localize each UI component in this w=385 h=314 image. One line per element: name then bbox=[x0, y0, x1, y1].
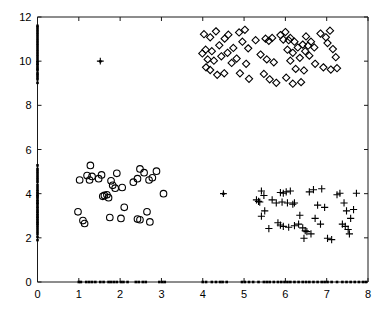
marker-dot bbox=[137, 281, 140, 284]
marker-dot bbox=[362, 281, 365, 284]
marker-dot bbox=[263, 281, 266, 284]
scatter-plot-figure: 012345678024681012 bbox=[0, 0, 385, 314]
marker-dot bbox=[110, 281, 113, 284]
marker-dot bbox=[120, 281, 123, 284]
marker-dot bbox=[163, 281, 166, 284]
marker-dot bbox=[201, 281, 204, 284]
marker-dot bbox=[280, 281, 283, 284]
marker-dot bbox=[144, 281, 147, 284]
marker-dot bbox=[358, 281, 361, 284]
marker-dot bbox=[94, 281, 97, 284]
marker-dot bbox=[126, 281, 129, 284]
y-tick-label-8: 8 bbox=[25, 99, 31, 111]
marker-dot bbox=[326, 281, 329, 284]
marker-dot bbox=[365, 281, 368, 284]
marker-dot bbox=[36, 72, 39, 75]
marker-dot bbox=[283, 281, 286, 284]
y-tick-label-12: 12 bbox=[19, 11, 31, 23]
marker-dot bbox=[36, 25, 39, 28]
marker-dot bbox=[161, 281, 164, 284]
marker-dot bbox=[36, 168, 39, 171]
x-tick-label-4: 4 bbox=[200, 288, 206, 300]
marker-dot bbox=[265, 281, 268, 284]
marker-dot bbox=[349, 281, 352, 284]
marker-dot bbox=[36, 82, 39, 85]
marker-dot bbox=[308, 281, 311, 284]
y-tick-label-0: 0 bbox=[25, 276, 31, 288]
marker-dot bbox=[36, 164, 39, 167]
marker-solid-plus-core bbox=[222, 192, 225, 195]
marker-dot bbox=[107, 281, 110, 284]
marker-dot bbox=[312, 281, 315, 284]
marker-dot bbox=[244, 281, 247, 284]
scatter-plot-page: 012345678024681012 bbox=[0, 0, 385, 314]
marker-dot bbox=[122, 281, 125, 284]
marker-dot bbox=[252, 281, 255, 284]
marker-dot bbox=[102, 281, 105, 284]
x-tick-label-2: 2 bbox=[117, 288, 123, 300]
marker-dot bbox=[301, 281, 304, 284]
marker-solid-plus-core bbox=[99, 60, 102, 63]
marker-dot bbox=[99, 281, 102, 284]
marker-dot bbox=[241, 281, 244, 284]
marker-dot bbox=[305, 281, 308, 284]
marker-dot bbox=[142, 281, 145, 284]
marker-dot bbox=[215, 281, 218, 284]
marker-dot bbox=[91, 281, 94, 284]
x-tick-label-0: 0 bbox=[34, 288, 40, 300]
marker-dot bbox=[248, 281, 251, 284]
marker-dot bbox=[80, 281, 83, 284]
x-tick-label-6: 6 bbox=[282, 288, 288, 300]
marker-dot bbox=[345, 281, 348, 284]
y-tick-label-6: 6 bbox=[25, 144, 31, 156]
y-tick-label-4: 4 bbox=[25, 188, 31, 200]
marker-dot bbox=[158, 281, 161, 284]
marker-dot bbox=[277, 281, 280, 284]
series-x-axis-projection bbox=[78, 281, 368, 284]
marker-dot bbox=[257, 281, 260, 284]
marker-dot bbox=[273, 281, 276, 284]
marker-dot bbox=[353, 281, 356, 284]
marker-dot bbox=[286, 281, 289, 284]
marker-dot bbox=[221, 281, 224, 284]
x-tick-label-1: 1 bbox=[76, 288, 82, 300]
y-tick-label-10: 10 bbox=[19, 55, 31, 67]
x-tick-label-5: 5 bbox=[241, 288, 247, 300]
marker-dot bbox=[85, 281, 88, 284]
marker-dot bbox=[289, 281, 292, 284]
marker-dot bbox=[36, 235, 39, 238]
marker-dot bbox=[316, 281, 319, 284]
marker-dot bbox=[88, 281, 91, 284]
marker-dot bbox=[297, 281, 300, 284]
marker-dot bbox=[293, 281, 296, 284]
marker-dot bbox=[205, 281, 208, 284]
marker-dot bbox=[116, 281, 119, 284]
marker-dot bbox=[268, 281, 271, 284]
marker-dot bbox=[219, 281, 222, 284]
marker-dot bbox=[135, 281, 138, 284]
marker-dot bbox=[336, 281, 339, 284]
marker-dot bbox=[211, 281, 214, 284]
marker-dot bbox=[36, 184, 39, 187]
marker-dot bbox=[36, 239, 39, 242]
marker-dot bbox=[323, 281, 326, 284]
x-tick-label-7: 7 bbox=[324, 288, 330, 300]
x-tick-label-8: 8 bbox=[365, 288, 371, 300]
x-tick-label-3: 3 bbox=[158, 288, 164, 300]
marker-dot bbox=[113, 281, 116, 284]
marker-dot bbox=[330, 281, 333, 284]
y-tick-label-2: 2 bbox=[25, 232, 31, 244]
marker-dot bbox=[225, 281, 228, 284]
marker-dot bbox=[341, 281, 344, 284]
marker-dot bbox=[320, 281, 323, 284]
